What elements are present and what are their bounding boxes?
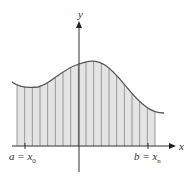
x-axis-arrow-icon	[169, 143, 176, 149]
left-endpoint-label: a = x0	[9, 151, 36, 165]
riemann-diagram: y x a = x0 b = xn	[0, 0, 191, 179]
right-endpoint-label: b = xn	[134, 151, 161, 165]
x-axis-label: x	[179, 141, 184, 152]
y-axis-arrow-icon	[76, 21, 82, 28]
y-axis-label: y	[78, 9, 83, 20]
strip-rectangles	[17, 61, 155, 146]
